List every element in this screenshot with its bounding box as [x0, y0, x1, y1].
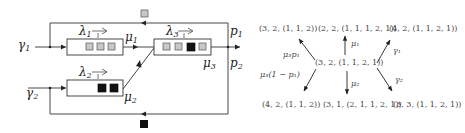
- gamma1-label: γ1: [18, 38, 30, 53]
- rate-up: μ₁: [351, 39, 359, 48]
- lambda3-label: λ3: [165, 24, 179, 39]
- queue-1-jobs: [86, 43, 115, 50]
- p2-label: p2: [230, 56, 243, 71]
- top-feedback-token: [141, 10, 148, 17]
- rate-up-right: γ₁: [393, 46, 401, 55]
- mu1-label: μ1: [125, 30, 138, 45]
- arrow-down-right-icon: [377, 68, 392, 91]
- job-token: [199, 43, 206, 50]
- job-token: [175, 43, 182, 50]
- lambda2-label: λ2: [78, 65, 92, 80]
- job-token: [110, 84, 118, 92]
- job-token: [163, 43, 170, 50]
- job-token: [97, 43, 104, 50]
- state-down-left: (4, 2, (1, 1, 2)): [262, 100, 320, 109]
- arrow-up-left-icon: [299, 39, 315, 60]
- mu3-label: μ3: [203, 56, 216, 71]
- bottom-feedback-token: [140, 120, 148, 128]
- rate-up-left: μ₃p₁: [283, 50, 300, 59]
- figure: ") --> γ1 γ2 λ1 λ2 λ3 μ1 μ2 μ3: [0, 0, 465, 133]
- mu2-label: μ2: [124, 90, 137, 105]
- p1-label: p1: [230, 24, 243, 39]
- job-token: [187, 43, 195, 51]
- arrow-up-right-icon: [377, 40, 390, 63]
- job-token: [108, 43, 115, 50]
- arrowhead-icon: [141, 112, 146, 117]
- center-state: (3, 2, (1, 1, 2, 1)): [315, 58, 383, 67]
- job-token: [86, 43, 93, 50]
- arrowhead-icon: [141, 21, 146, 26]
- job-token: [98, 84, 106, 92]
- rate-down-right: γ₂: [395, 75, 403, 84]
- arrow-down-left-icon: [304, 69, 316, 91]
- rate-down-left: μ₃(1 − p₁): [260, 70, 300, 79]
- state-down: (3, 1, (2, 1, 1, 2, 1)): [323, 100, 402, 109]
- state-down-right: (3, 3, (1, 1, 2, 1)): [393, 100, 461, 109]
- state-up-left: (3, 2, (1, 1, 2)): [259, 24, 317, 33]
- state-up: (2, 2, (1, 1, 1, 2, 1)): [318, 24, 397, 33]
- state-up-right: (4, 2, (1, 1, 2, 1)): [389, 24, 457, 33]
- rate-down: μ₂: [351, 79, 359, 88]
- transition-diagram: (3, 2, (1, 1, 2, 1)) (3, 2, (1, 1, 2)) (…: [259, 24, 461, 109]
- lambda1-label: λ1: [78, 24, 92, 39]
